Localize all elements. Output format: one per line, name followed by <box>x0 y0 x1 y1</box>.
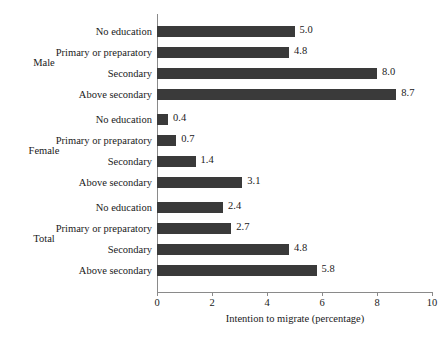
bar <box>157 244 289 255</box>
bar-row: 5.0 <box>157 26 442 37</box>
bar <box>157 135 176 146</box>
x-axis-line <box>157 292 433 293</box>
bar <box>157 265 317 276</box>
bar-value-label: 0.7 <box>181 133 194 144</box>
bar <box>157 177 242 188</box>
bar <box>157 26 295 37</box>
group-label: Female <box>14 145 74 156</box>
group-label: Male <box>14 57 74 68</box>
bar-value-label: 0.4 <box>173 112 186 123</box>
bar-row: 3.1 <box>157 177 442 188</box>
category-label: Secondary <box>108 244 152 255</box>
bar <box>157 89 396 100</box>
bar-row: 0.7 <box>157 135 442 146</box>
bar-row: 4.8 <box>157 47 442 58</box>
category-label: Above secondary <box>79 265 152 276</box>
x-axis-tick-label: 8 <box>374 297 379 308</box>
bar-value-label: 5.8 <box>322 263 335 274</box>
bar-value-label: 8.0 <box>382 66 395 77</box>
x-axis-tick-mark <box>432 292 433 296</box>
x-axis-tick-label: 10 <box>427 297 438 308</box>
x-axis-title: Intention to migrate (percentage) <box>157 313 433 324</box>
x-axis-tick-mark <box>322 292 323 296</box>
bar-chart: 0246810 5.04.88.08.70.40.71.43.12.42.74.… <box>0 0 442 337</box>
bar <box>157 47 289 58</box>
bar-value-label: 4.8 <box>294 242 307 253</box>
category-label: No education <box>96 26 152 37</box>
bar-row: 0.4 <box>157 114 442 125</box>
x-axis-tick-label: 0 <box>154 297 159 308</box>
bar-row: 5.8 <box>157 265 442 276</box>
bar-row: 2.7 <box>157 223 442 234</box>
bar-row: 1.4 <box>157 156 442 167</box>
bar <box>157 202 223 213</box>
bar-value-label: 5.0 <box>300 24 313 35</box>
bar <box>157 114 168 125</box>
category-label: No education <box>96 114 152 125</box>
x-axis-tick-mark <box>267 292 268 296</box>
category-label: No education <box>96 202 152 213</box>
bar-value-label: 3.1 <box>247 175 260 186</box>
bar <box>157 223 231 234</box>
bar-row: 2.4 <box>157 202 442 213</box>
x-axis-tick-label: 6 <box>319 297 324 308</box>
category-label: Secondary <box>108 68 152 79</box>
bar <box>157 68 377 79</box>
group-label: Total <box>14 233 74 244</box>
bar-value-label: 8.7 <box>401 87 414 98</box>
bar-value-label: 2.4 <box>228 200 241 211</box>
category-label: Above secondary <box>79 89 152 100</box>
bar-value-label: 2.7 <box>236 221 249 232</box>
x-axis-tick-mark <box>212 292 213 296</box>
x-axis-tick-label: 2 <box>209 297 214 308</box>
bar-row: 4.8 <box>157 244 442 255</box>
bar <box>157 156 196 167</box>
bar-row: 8.7 <box>157 89 442 100</box>
bar-row: 8.0 <box>157 68 442 79</box>
x-axis-tick-mark <box>157 292 158 296</box>
bar-value-label: 4.8 <box>294 45 307 56</box>
x-axis-tick-mark <box>377 292 378 296</box>
category-label: Secondary <box>108 156 152 167</box>
category-label: Above secondary <box>79 177 152 188</box>
bar-value-label: 1.4 <box>201 154 214 165</box>
x-axis-tick-label: 4 <box>264 297 269 308</box>
